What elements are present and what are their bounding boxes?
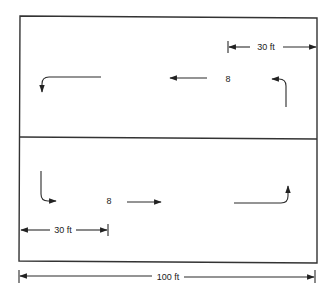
bottom-lane-label: 8 xyxy=(106,196,111,206)
overall-width-label: 100 ft xyxy=(157,272,180,282)
center-divider xyxy=(19,137,317,139)
top-lane-label: 8 xyxy=(225,74,230,84)
traffic-flow-diagram: 30 ft 8 8 30 ft 100 ft xyxy=(0,0,330,300)
bottom-30ft-dimension: 30 ft xyxy=(21,224,108,236)
overall-100ft-dimension: 100 ft xyxy=(19,270,315,283)
top-right-turn-arrow-icon xyxy=(272,79,286,107)
top-30ft-dimension: 30 ft xyxy=(228,41,316,53)
bottom-left-turn-arrow-icon xyxy=(41,171,56,201)
top-left-turn-arrow-icon xyxy=(42,77,101,92)
top-offset-label: 30 ft xyxy=(257,42,275,52)
bottom-offset-label: 30 ft xyxy=(54,225,72,235)
bottom-right-turn-arrow-icon xyxy=(234,186,288,203)
